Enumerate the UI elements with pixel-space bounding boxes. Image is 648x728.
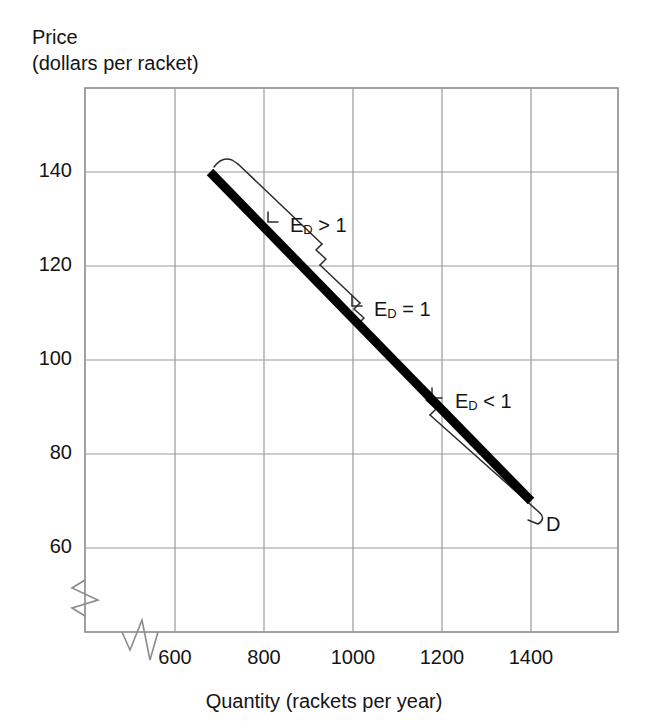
x-axis-label: Quantity (rackets per year) (0, 690, 648, 713)
xtick-label-600: 600 (135, 646, 215, 669)
annotation-inelastic-subscript: D (468, 398, 477, 413)
ytick-label-60: 60 (14, 535, 72, 558)
annotation-elastic-subscript: D (303, 222, 312, 237)
plot-canvas (0, 0, 648, 728)
elasticity-demand-chart: Price(dollars per racket) (0, 0, 648, 728)
annotation-unit-elastic-subscript: D (387, 306, 396, 321)
ytick-label-80: 80 (14, 441, 72, 464)
ytick-label-120: 120 (14, 253, 72, 276)
annotation-elastic-relation: > 1 (318, 214, 346, 236)
xtick-label-1200: 1200 (402, 646, 482, 669)
ytick-label-100: 100 (14, 347, 72, 370)
xtick-label-800: 800 (224, 646, 304, 669)
demand-curve-label: D (546, 513, 560, 536)
xtick-label-1000: 1000 (313, 646, 393, 669)
annotation-inelastic: ED < 1 (455, 390, 512, 413)
ytick-label-140: 140 (14, 159, 72, 182)
annotation-elastic: ED > 1 (290, 214, 347, 237)
annotation-unit-elastic-relation: = 1 (402, 298, 430, 320)
annotation-unit-elastic-symbol: E (374, 298, 387, 320)
annotation-unit-elastic: ED = 1 (374, 298, 431, 321)
annotation-inelastic-relation: < 1 (483, 390, 511, 412)
annotation-elastic-symbol: E (290, 214, 303, 236)
annotation-inelastic-symbol: E (455, 390, 468, 412)
xtick-label-1400: 1400 (491, 646, 571, 669)
